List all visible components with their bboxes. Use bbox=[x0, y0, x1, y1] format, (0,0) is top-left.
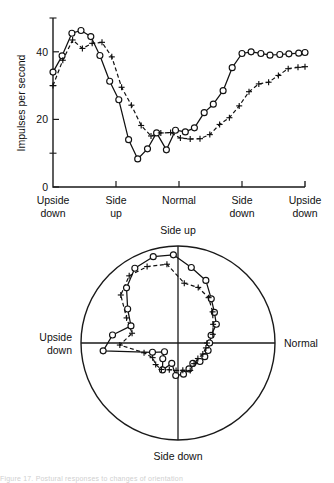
polar-orientation-label: Upside bbox=[39, 331, 72, 343]
data-point-circle bbox=[296, 50, 302, 56]
data-point-circle bbox=[208, 296, 214, 302]
data-point-circle bbox=[239, 50, 245, 56]
data-point-circle bbox=[132, 265, 138, 271]
scientific-figure: 02040 UpsidedownSideupNormalSidedownUpsi… bbox=[0, 0, 334, 483]
data-point-circle bbox=[150, 254, 156, 260]
data-point-circle bbox=[125, 306, 131, 312]
data-point-circle bbox=[128, 323, 134, 329]
data-point-circle bbox=[229, 65, 235, 71]
x-axis-category-label: Side bbox=[105, 194, 126, 206]
polar-orientation-label: Normal bbox=[284, 337, 318, 349]
data-point-circle bbox=[170, 252, 176, 258]
data-point-circle bbox=[88, 34, 94, 40]
y-axis-tick-label: 40 bbox=[36, 46, 48, 58]
data-point-circle bbox=[78, 28, 84, 34]
polar-data-markers bbox=[100, 252, 219, 379]
data-point-circle bbox=[97, 53, 103, 59]
cartesian-x-category-labels: UpsidedownSideupNormalSidedownUpsidedown bbox=[37, 194, 322, 219]
data-point-circle bbox=[59, 53, 65, 59]
data-point-circle bbox=[110, 332, 116, 338]
data-point-circle bbox=[50, 69, 56, 75]
data-point-circle bbox=[302, 49, 308, 55]
data-point-circle bbox=[258, 50, 264, 56]
data-point-circle bbox=[161, 349, 167, 355]
data-point-circle bbox=[69, 30, 75, 36]
data-point-circle bbox=[220, 88, 226, 94]
data-point-circle bbox=[169, 360, 175, 366]
data-point-circle bbox=[180, 371, 186, 377]
data-point-circle bbox=[277, 52, 283, 58]
cartesian-y-tick-labels: 02040 bbox=[36, 46, 48, 193]
data-point-circle bbox=[163, 147, 169, 153]
data-point-circle bbox=[135, 156, 141, 162]
data-point-circle bbox=[286, 51, 292, 57]
data-point-circle bbox=[267, 52, 273, 58]
data-point-circle bbox=[188, 265, 194, 271]
figure-panel: 02040 UpsidedownSideupNormalSidedownUpsi… bbox=[0, 0, 334, 483]
data-point-circle bbox=[107, 78, 113, 84]
data-point-circle bbox=[248, 49, 254, 55]
cartesian-series-circles bbox=[53, 31, 305, 159]
x-axis-category-label: down bbox=[229, 207, 254, 219]
y-axis-tick-label: 20 bbox=[36, 113, 48, 125]
data-point-circle bbox=[126, 137, 132, 143]
data-point-circle bbox=[210, 101, 216, 107]
y-axis-tick-label: 0 bbox=[42, 181, 48, 193]
data-point-circle bbox=[201, 110, 207, 116]
figure-caption-fragment: Figure 17. Postural responses to changes… bbox=[0, 474, 334, 483]
x-axis-category-label: Upside bbox=[37, 194, 70, 206]
cartesian-plot: 02040 UpsidedownSideupNormalSidedownUpsi… bbox=[15, 18, 322, 219]
polar-orientation-label: Side up bbox=[160, 224, 196, 236]
x-axis-category-label: down bbox=[292, 207, 317, 219]
y-axis-title: Impulses per second bbox=[15, 54, 27, 151]
polar-orientation-label: down bbox=[47, 344, 72, 356]
polar-plot: Side upNormalSide downUpsidedown bbox=[39, 224, 318, 462]
data-point-circle bbox=[191, 125, 197, 131]
polar-orientation-label: Side down bbox=[153, 450, 202, 462]
data-point-circle bbox=[116, 97, 122, 103]
x-axis-category-label: Side bbox=[231, 194, 252, 206]
series-line-solid bbox=[53, 31, 305, 159]
x-axis-category-label: Upside bbox=[289, 194, 322, 206]
data-point-circle bbox=[203, 277, 209, 283]
cartesian-data-markers bbox=[50, 28, 308, 162]
x-axis-category-label: Normal bbox=[162, 194, 196, 206]
data-point-circle bbox=[145, 146, 151, 152]
cartesian-axes bbox=[50, 18, 306, 187]
x-axis-category-label: down bbox=[40, 207, 65, 219]
x-axis-category-label: up bbox=[110, 207, 122, 219]
data-point-circle bbox=[182, 129, 188, 135]
data-point-circle bbox=[149, 349, 155, 355]
data-point-circle bbox=[124, 285, 130, 291]
data-point-circle bbox=[100, 348, 106, 354]
data-point-circle bbox=[160, 356, 166, 362]
